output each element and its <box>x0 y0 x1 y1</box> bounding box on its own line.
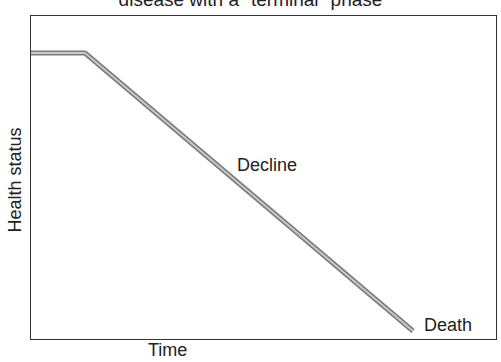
y-axis-label: Health status <box>5 115 26 245</box>
x-axis-label: Time <box>148 340 187 361</box>
death-annotation: Death <box>424 315 472 336</box>
decline-annotation: Decline <box>237 155 297 176</box>
health-trajectory-line <box>0 0 501 362</box>
